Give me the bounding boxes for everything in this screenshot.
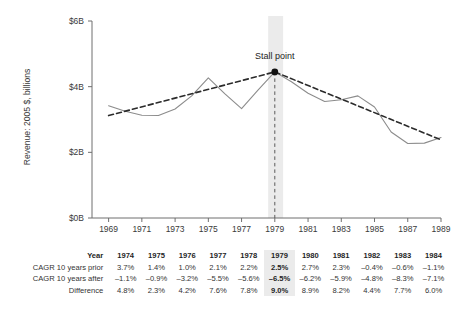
y-tick-$4B: $4B bbox=[50, 82, 84, 92]
table-cell: –1.1% bbox=[110, 273, 141, 285]
table-cell: 6.0% bbox=[418, 285, 449, 297]
table-cell: –3.2% bbox=[172, 273, 203, 285]
table-cell: 9.0% bbox=[264, 285, 295, 297]
table-cell: 7.8% bbox=[233, 285, 264, 297]
highlight-band-rect bbox=[268, 16, 283, 218]
table-row: CAGR 10 years prior3.7%1.4%1.0%2.1%2.2%2… bbox=[0, 262, 449, 274]
table-cell: –1.1% bbox=[418, 262, 449, 274]
x-tick-1985: 1985 bbox=[358, 224, 392, 234]
table-cell: 1975 bbox=[141, 250, 172, 262]
stall-point-marker bbox=[271, 68, 278, 75]
table-cell: 8.9% bbox=[295, 285, 326, 297]
table-row: CAGR 10 years after–1.1%–0.9%–3.2%–5.5%–… bbox=[0, 273, 449, 285]
table-cell: 4.2% bbox=[172, 285, 203, 297]
stall-highlight-band bbox=[268, 16, 283, 218]
table-row-label: CAGR 10 years after bbox=[0, 273, 110, 285]
table-cell: –5.5% bbox=[203, 273, 234, 285]
table-row: Year197419751976197719781979198019811982… bbox=[0, 250, 449, 262]
table-cell: 1983 bbox=[387, 250, 418, 262]
table-cell: 1.0% bbox=[172, 262, 203, 274]
table-cell: 1984 bbox=[418, 250, 449, 262]
table-cell: 2.5% bbox=[264, 262, 295, 274]
chart-canvas bbox=[0, 0, 449, 245]
table-cell: 3.7% bbox=[110, 262, 141, 274]
table-cell: 1.4% bbox=[141, 262, 172, 274]
x-tick-1981: 1981 bbox=[291, 224, 325, 234]
table-cell: 1981 bbox=[326, 250, 357, 262]
y-tick-$2B: $2B bbox=[50, 147, 84, 157]
table-cell: 1977 bbox=[203, 250, 234, 262]
table-cell: 1978 bbox=[233, 250, 264, 262]
table-cell: 8.2% bbox=[326, 285, 357, 297]
revenue-chart: Revenue: 2005 $, billions $0B$2B$4B$6B 1… bbox=[0, 0, 449, 245]
table-cell: –5.6% bbox=[233, 273, 264, 285]
x-tick-1987: 1987 bbox=[391, 224, 425, 234]
table-cell: –7.1% bbox=[418, 273, 449, 285]
x-tick-1983: 1983 bbox=[324, 224, 358, 234]
x-tick-1977: 1977 bbox=[225, 224, 259, 234]
x-tick-1973: 1973 bbox=[158, 224, 192, 234]
x-tick-1989: 1989 bbox=[424, 224, 455, 234]
table-cell: –6.2% bbox=[295, 273, 326, 285]
table-cell: –6.5% bbox=[264, 273, 295, 285]
table-row-label: Year bbox=[0, 250, 110, 262]
table-row-label: CAGR 10 years prior bbox=[0, 262, 110, 274]
table-cell: 4.4% bbox=[357, 285, 388, 297]
table-cell: 7.6% bbox=[203, 285, 234, 297]
table-cell: 2.7% bbox=[295, 262, 326, 274]
y-axis-title: Revenue: 2005 $, billions bbox=[22, 42, 32, 192]
table-body: Year197419751976197719781979198019811982… bbox=[0, 250, 449, 296]
cagr-data-table: Year197419751976197719781979198019811982… bbox=[0, 250, 449, 296]
table-cell: –0.4% bbox=[357, 262, 388, 274]
table-cell: –0.9% bbox=[141, 273, 172, 285]
table-cell: 2.3% bbox=[141, 285, 172, 297]
x-tick-1971: 1971 bbox=[125, 224, 159, 234]
x-tick-1979: 1979 bbox=[258, 224, 292, 234]
table-cell: 2.3% bbox=[326, 262, 357, 274]
table-row: Difference4.8%2.3%4.2%7.6%7.8%9.0%8.9%8.… bbox=[0, 285, 449, 297]
table-cell: 2.2% bbox=[233, 262, 264, 274]
table-row-label: Difference bbox=[0, 285, 110, 297]
table-cell: –0.6% bbox=[387, 262, 418, 274]
table-cell: 4.8% bbox=[110, 285, 141, 297]
y-tick-$0B: $0B bbox=[50, 213, 84, 223]
table-cell: 1980 bbox=[295, 250, 326, 262]
table-cell: 1974 bbox=[110, 250, 141, 262]
table-cell: –8.3% bbox=[387, 273, 418, 285]
stall-point-label: Stall point bbox=[220, 51, 330, 61]
y-tick-$6B: $6B bbox=[50, 16, 84, 26]
table-cell: 2.1% bbox=[203, 262, 234, 274]
x-tick-1975: 1975 bbox=[191, 224, 225, 234]
table-cell: –5.9% bbox=[326, 273, 357, 285]
table-cell: 1976 bbox=[172, 250, 203, 262]
table-cell: –4.8% bbox=[357, 273, 388, 285]
x-tick-1969: 1969 bbox=[92, 224, 126, 234]
table-cell: 7.7% bbox=[387, 285, 418, 297]
table-cell: 1982 bbox=[357, 250, 388, 262]
table-cell: 1979 bbox=[264, 250, 295, 262]
